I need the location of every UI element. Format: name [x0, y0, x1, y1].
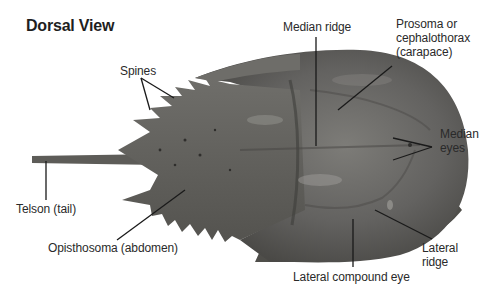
label-prosoma: Prosoma or cephalothorax (carapace) — [396, 17, 470, 59]
label-opisthosoma: Opisthosoma (abdomen) — [48, 241, 178, 255]
label-lateral-ridge: Lateral ridge — [422, 241, 458, 269]
label-median-eyes: Median eyes — [440, 127, 479, 155]
label-spines: Spines — [120, 64, 156, 78]
highlight — [298, 174, 342, 186]
label-median-ridge: Median ridge — [283, 20, 351, 34]
label-lateral-compound-eye: Lateral compound eye — [293, 270, 410, 284]
label-telson: Telson (tail) — [16, 202, 76, 216]
highlight — [332, 74, 392, 86]
median-eye-marker — [408, 143, 412, 147]
diagram-title: Dorsal View — [26, 17, 114, 35]
horseshoe-crab-diagram: Dorsal View Spines Median ridge Prosoma … — [0, 0, 496, 301]
opisthosoma-shape — [118, 78, 305, 242]
highlight — [247, 115, 283, 125]
lateral-eye-marker — [387, 200, 393, 210]
